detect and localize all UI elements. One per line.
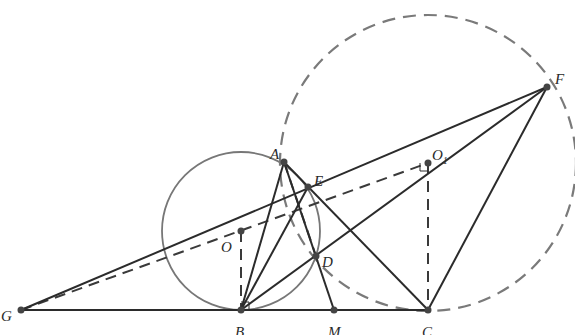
point-D	[313, 253, 320, 260]
segment-BA	[241, 162, 284, 310]
label-O1: O1	[432, 147, 448, 166]
label-M: M	[327, 324, 342, 335]
label-D: D	[321, 254, 333, 270]
point-O	[238, 228, 245, 235]
point-C	[425, 307, 432, 314]
label-B: B	[235, 324, 244, 335]
label-F: F	[554, 71, 565, 87]
label-E: E	[313, 173, 323, 189]
point-E	[305, 184, 312, 191]
point-M	[331, 307, 338, 314]
label-O: O	[221, 239, 232, 255]
label-A: A	[269, 146, 280, 162]
segment-AC	[284, 162, 428, 310]
label-G: G	[1, 308, 12, 324]
geometry-figure: AEOO1FGBMCD	[0, 0, 575, 335]
point-F	[544, 84, 551, 91]
segment-CF	[428, 87, 547, 310]
point-O1	[425, 160, 432, 167]
segment-GF	[21, 87, 547, 310]
point-B	[238, 307, 245, 314]
label-C: C	[422, 324, 433, 335]
point-A	[281, 159, 288, 166]
geometry-diagram: AEOO1FGBMCD	[0, 0, 575, 335]
point-G	[18, 307, 25, 314]
dashed-segment-GO1	[21, 163, 428, 310]
